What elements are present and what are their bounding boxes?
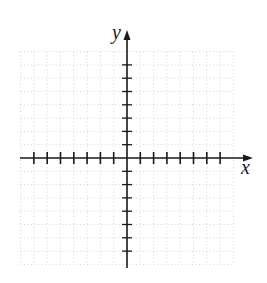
axes	[20, 30, 253, 268]
y-axis-label: y	[110, 21, 121, 44]
y-axis-arrow-icon	[124, 30, 131, 40]
x-axis-label: x	[240, 156, 250, 178]
coordinate-plane: y x	[0, 0, 267, 283]
